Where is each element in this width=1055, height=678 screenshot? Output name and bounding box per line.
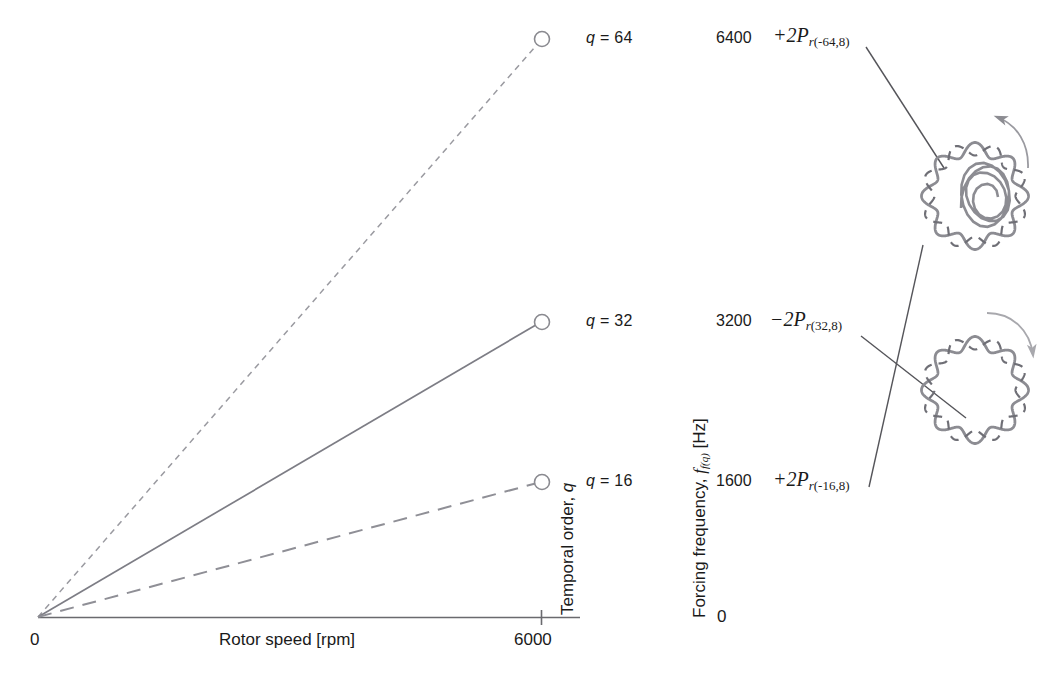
q-value-q32: = 32 [595, 312, 633, 329]
frequency-value-3200: 3200 [716, 312, 752, 330]
mode-wave-dashed [925, 146, 1025, 246]
force-symbol-top: P [797, 24, 809, 46]
frequency-axis-title: Forcing frequency, ff(q) [Hz] [690, 418, 710, 618]
mode-wave-solid [922, 143, 1029, 250]
figure-canvas: q = 64 q = 32 q = 16 6400 3200 1600 0 +2… [0, 0, 1055, 678]
frequency-axis-subscript: f(q) [698, 453, 710, 469]
frequency-value-6400: 6400 [716, 29, 752, 47]
upper-mode-ring [922, 143, 1029, 250]
force-label-mid: −2Pr(32,8) [770, 308, 842, 334]
x-axis-min-label: 0 [30, 630, 39, 650]
q-symbol-q64: q [586, 29, 595, 46]
frequency-axis-unit: [Hz] [690, 418, 709, 453]
force-sign-mid: −2 [770, 308, 794, 330]
lower-mode-ring [922, 337, 1029, 444]
frequency-axis-symbol: f [690, 469, 709, 474]
force-sub-args-mid: (32,8) [811, 318, 842, 333]
force-label-top: +2Pr(-64,8) [773, 24, 850, 50]
force-symbol-mid: P [794, 308, 806, 330]
x-axis-title: Rotor speed [rpm] [219, 630, 355, 650]
frequency-value-1600: 1600 [716, 472, 752, 490]
x-axis-max-label: 6000 [514, 630, 552, 650]
q-value-q64: = 64 [595, 29, 633, 46]
force-label-bottom: +2Pr(-16,8) [773, 468, 850, 494]
force-sign-bottom: +2 [773, 468, 797, 490]
force-sub-args-top: (-64,8) [814, 34, 850, 49]
series-label-q32: q = 32 [586, 312, 633, 330]
q-value-q16: = 16 [595, 472, 633, 489]
series-label-q16: q = 16 [586, 472, 633, 490]
mode-shape-rings [0, 0, 1055, 678]
mode-wave-solid [922, 337, 1029, 444]
force-sub-args-bottom: (-16,8) [814, 478, 850, 493]
q-symbol-q16: q [586, 472, 595, 489]
frequency-axis-zero: 0 [717, 607, 726, 627]
mode-wave-dashed [925, 340, 1025, 440]
q-symbol-q32: q [586, 312, 595, 329]
order-axis-title: Temporal order, q [558, 483, 578, 615]
force-symbol-bottom: P [797, 468, 809, 490]
force-sign-top: +2 [773, 24, 797, 46]
frequency-axis-title-main: Forcing frequency, [690, 474, 709, 618]
series-label-q64: q = 64 [586, 29, 633, 47]
